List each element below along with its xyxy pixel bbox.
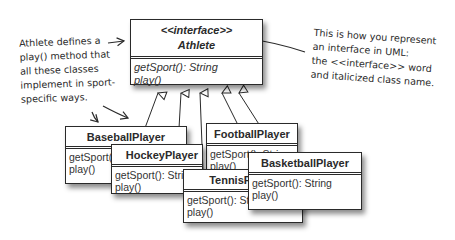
interface-name: Athlete	[133, 38, 260, 53]
method: getSport(): String	[134, 61, 259, 74]
class-name: BasketballPlayer	[249, 153, 361, 175]
method: play()	[252, 189, 358, 201]
annotation-left: Athlete defines a play() method that all…	[19, 33, 116, 106]
method: play()	[134, 74, 259, 87]
basketballplayer-class-box: BasketballPlayer getSport(): String play…	[248, 152, 362, 210]
class-name: HockeyPlayer	[112, 145, 202, 167]
class-methods: getSport(): String play()	[249, 175, 361, 203]
athlete-interface-header: <<interface>> Athlete	[131, 20, 262, 59]
athlete-interface-methods: getSport(): String play()	[131, 59, 262, 89]
athlete-interface-box: <<interface>> Athlete getSport(): String…	[130, 19, 263, 85]
annotation-right: This is how you represent an interface i…	[310, 26, 437, 91]
class-name: FootballPlayer	[207, 124, 297, 146]
method: getSport(): String	[252, 177, 358, 189]
interface-stereotype: <<interface>>	[133, 23, 260, 38]
